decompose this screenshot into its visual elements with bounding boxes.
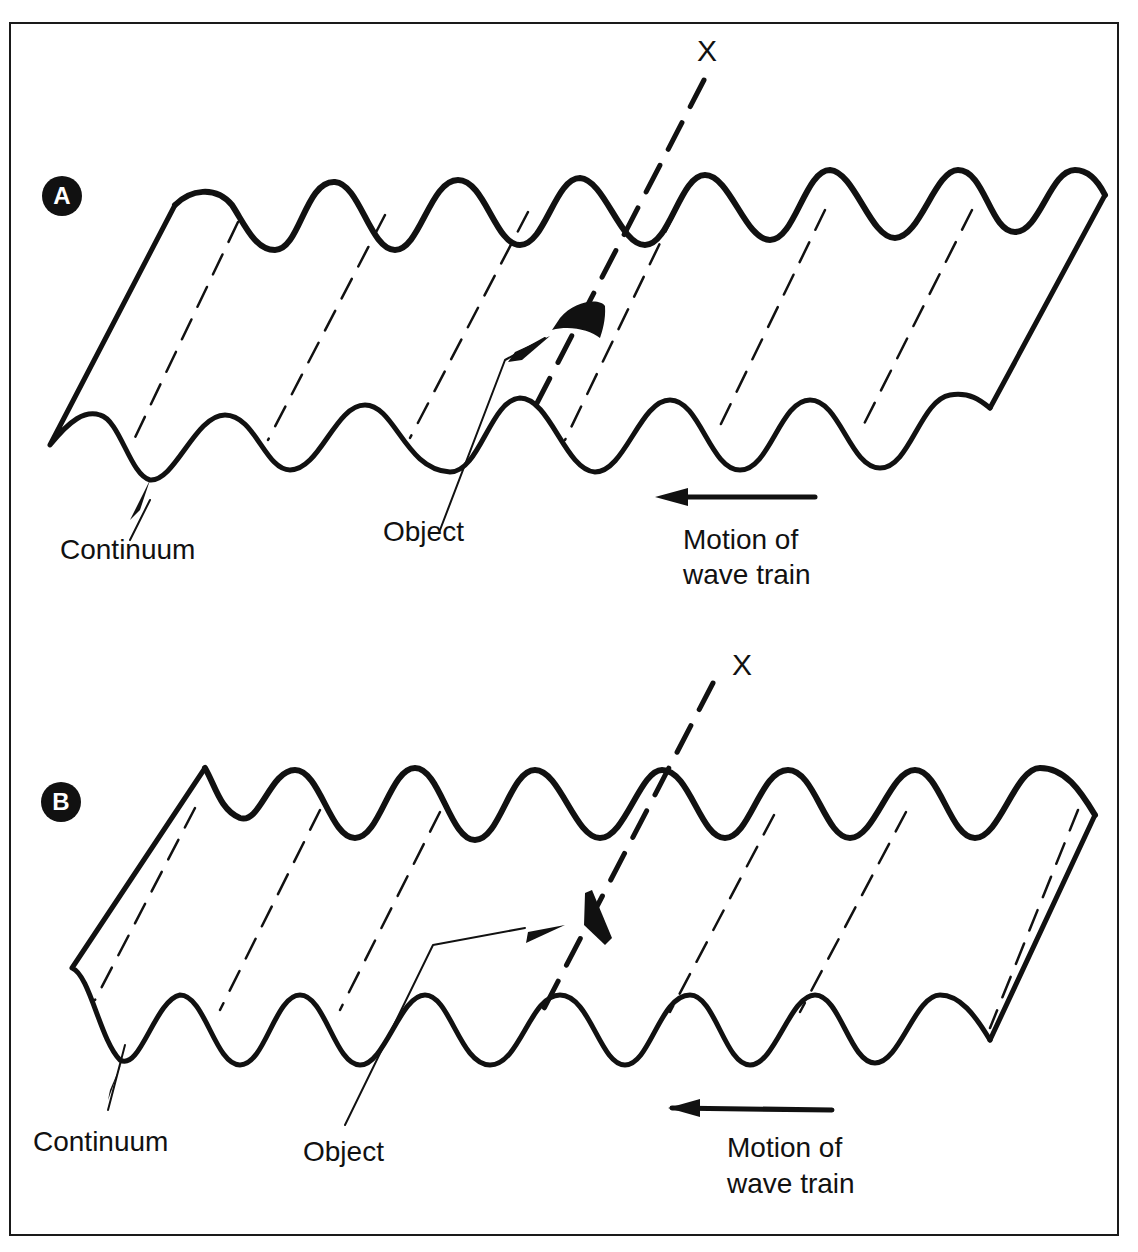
panel-a-x-label: X <box>697 34 717 68</box>
panel-b-motion-label-line2: wave train <box>727 1169 855 1199</box>
panel-a-badge: A <box>42 176 82 216</box>
panel-b-x-label: X <box>732 648 752 682</box>
panel-b-continuum-label: Continuum <box>33 1127 168 1157</box>
panel-b-continuum-arrowhead <box>108 1062 122 1100</box>
panel-b-motion-arrowhead <box>668 1099 700 1117</box>
panel-a-motion-label-line2: wave train <box>683 560 811 590</box>
panel-b-object-label: Object <box>303 1137 384 1167</box>
panel-a-object-icon <box>552 302 605 338</box>
panel-b-x-axis <box>538 683 713 1020</box>
panel-b-motion-label-line1: Motion of <box>727 1133 842 1163</box>
panel-a-continuum-arrowhead <box>130 480 150 520</box>
panel-b-object-icon <box>584 890 612 945</box>
panel-a-x-axis <box>536 80 704 405</box>
panel-a-continuum-label: Continuum <box>60 535 195 565</box>
wave-train-figure: A X Continuum Object Motion of wave trai… <box>0 0 1138 1252</box>
panel-a-motion-label-line1: Motion of <box>683 525 798 555</box>
panel-a-object-arrowhead <box>508 336 550 362</box>
panel-b-object-pointer <box>108 928 525 1125</box>
panel-a-object-label: Object <box>383 517 464 547</box>
panel-b-object-arrowhead <box>526 925 565 943</box>
panel-a-motion-arrowhead <box>655 488 688 506</box>
panel-b-surface <box>72 768 1095 1065</box>
wave-drawing <box>0 0 1138 1252</box>
panel-b-badge: B <box>41 782 81 822</box>
